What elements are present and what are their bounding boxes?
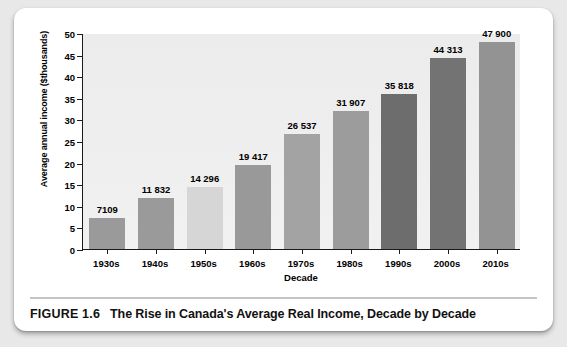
bar-2010s xyxy=(479,42,515,249)
y-axis-tick-label: 10 xyxy=(64,201,75,212)
bar-value-label-1930s: 7109 xyxy=(97,204,118,215)
bar-group: 44 313 xyxy=(430,34,466,249)
bar-1980s xyxy=(333,111,369,249)
x-axis-tick-label-1940s: 1940s xyxy=(142,258,168,269)
bar-value-label-1950s: 14 296 xyxy=(190,173,219,184)
y-axis-tick-label: 5 xyxy=(70,223,75,234)
bar-1940s xyxy=(138,198,174,249)
x-axis-tick-mark xyxy=(205,249,206,254)
y-axis-tick-mark xyxy=(77,250,83,251)
y-axis-tick-mark xyxy=(77,120,83,121)
bar-group: 19 417 xyxy=(235,34,271,249)
y-axis-tick-label: 35 xyxy=(64,93,75,104)
bar-group: 14 296 xyxy=(187,34,223,249)
bar-group: 47 900 xyxy=(479,34,515,249)
x-axis-tick-label-1950s: 1950s xyxy=(190,258,216,269)
bar-value-label-2010s: 47 900 xyxy=(482,28,511,39)
y-axis-tick-mark xyxy=(77,56,83,57)
chart-region: Average annual income ($thousands) 05101… xyxy=(14,8,553,291)
y-axis-tick-label: 0 xyxy=(70,245,75,256)
y-axis-tick-label: 45 xyxy=(64,50,75,61)
y-axis-tick-mark xyxy=(77,77,83,78)
x-axis-tick-mark xyxy=(399,249,400,254)
y-axis-title: Average annual income ($thousands) xyxy=(39,19,49,199)
plot-inner: 05101520253035404550710911 83214 29619 4… xyxy=(83,34,520,249)
figure-card: Average annual income ($thousands) 05101… xyxy=(14,8,553,331)
x-axis-tick-label-1930s: 1930s xyxy=(93,258,119,269)
bar-1960s xyxy=(235,165,271,249)
plot-area: 05101520253035404550710911 83214 29619 4… xyxy=(82,34,520,250)
bar-value-label-1940s: 11 832 xyxy=(142,184,171,195)
x-axis-tick-label-1960s: 1960s xyxy=(239,258,265,269)
bar-group: 31 907 xyxy=(333,34,369,249)
bar-1990s xyxy=(381,94,417,249)
bar-2000s xyxy=(430,58,466,249)
bar-value-label-1990s: 35 818 xyxy=(385,80,414,91)
bar-1970s xyxy=(284,134,320,249)
x-axis-tick-mark xyxy=(107,249,108,254)
bar-value-label-1980s: 31 907 xyxy=(336,97,365,108)
y-axis-tick-mark xyxy=(77,185,83,186)
x-axis-tick-mark xyxy=(156,249,157,254)
caption-title: The Rise in Canada's Average Real Income… xyxy=(110,307,476,321)
bar-1930s xyxy=(89,218,125,249)
bar-value-label-1960s: 19 417 xyxy=(239,151,268,162)
y-axis-tick-label: 25 xyxy=(64,137,75,148)
bar-group: 7109 xyxy=(89,34,125,249)
x-axis-tick-label-2010s: 2010s xyxy=(482,258,508,269)
bar-group: 26 537 xyxy=(284,34,320,249)
y-axis-tick-mark xyxy=(77,99,83,100)
y-axis-tick-label: 30 xyxy=(64,115,75,126)
x-axis-tick-mark xyxy=(351,249,352,254)
y-axis-tick-mark xyxy=(77,142,83,143)
y-axis-tick-mark xyxy=(77,164,83,165)
x-axis-tick-label-2000s: 2000s xyxy=(434,258,460,269)
bar-value-label-2000s: 44 313 xyxy=(433,44,462,55)
x-axis-title: Decade xyxy=(82,272,520,283)
x-axis-tick-mark xyxy=(497,249,498,254)
bar-group: 35 818 xyxy=(381,34,417,249)
x-axis-tick-mark xyxy=(302,249,303,254)
y-axis-tick-mark xyxy=(77,34,83,35)
y-axis-tick-label: 40 xyxy=(64,72,75,83)
caption-divider xyxy=(30,297,537,299)
y-axis-tick-mark xyxy=(77,228,83,229)
x-axis-tick-label-1970s: 1970s xyxy=(288,258,314,269)
x-axis-tick-label-1990s: 1990s xyxy=(385,258,411,269)
caption-figure-number: FIGURE 1.6 xyxy=(30,307,100,321)
y-axis-tick-mark xyxy=(77,207,83,208)
x-axis-tick-label-1980s: 1980s xyxy=(336,258,362,269)
bar-group: 11 832 xyxy=(138,34,174,249)
y-axis-tick-label: 50 xyxy=(64,29,75,40)
figure-caption: FIGURE 1.6The Rise in Canada's Average R… xyxy=(30,307,540,321)
bar-1950s xyxy=(187,187,223,249)
bar-value-label-1970s: 26 537 xyxy=(287,120,316,131)
x-axis-tick-mark xyxy=(448,249,449,254)
y-axis-tick-label: 20 xyxy=(64,158,75,169)
x-axis-tick-mark xyxy=(253,249,254,254)
y-axis-tick-label: 15 xyxy=(64,180,75,191)
